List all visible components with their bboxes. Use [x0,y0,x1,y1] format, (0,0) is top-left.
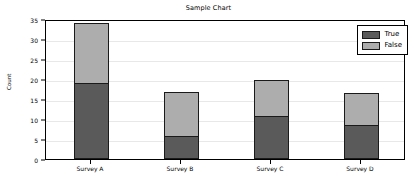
x-tick-mark [360,160,361,164]
legend-item-true[interactable]: True [362,29,402,40]
bar-segment-true[interactable] [164,136,199,159]
y-tick-label: 35 [30,17,38,24]
legend-label: True [384,31,399,38]
bar-stack[interactable] [344,93,379,159]
chart-title: Sample Chart [0,4,417,12]
bar-segment-false[interactable] [74,23,109,83]
y-tick-label: 25 [30,57,38,64]
x-tick-mark [180,160,181,164]
y-tick-label: 0 [34,157,38,164]
x-tick-label: Survey B [167,165,194,172]
legend-swatch-icon [362,42,380,50]
y-axis-ticks: 05101520253035 [0,20,45,160]
plot-area [45,20,405,160]
bar-stack[interactable] [254,80,289,159]
bar-segment-true[interactable] [344,125,379,159]
x-tick-label: Survey A [77,165,104,172]
x-tick-mark [90,160,91,164]
chart-legend: TrueFalse [357,25,408,55]
x-axis-ticks: Survey ASurvey BSurvey CSurvey D [45,160,405,180]
bar-segment-true[interactable] [254,116,289,159]
bar-segment-false[interactable] [164,92,199,136]
legend-label: False [384,42,402,49]
bar-segment-true[interactable] [74,83,109,159]
bar-stack[interactable] [74,23,109,159]
bar-segment-false[interactable] [344,93,379,125]
x-tick-label: Survey D [346,165,373,172]
y-tick-label: 20 [30,77,38,84]
bar-stack[interactable] [164,92,199,159]
legend-item-false[interactable]: False [362,40,402,51]
y-tick-label: 10 [30,117,38,124]
y-tick-label: 30 [30,37,38,44]
x-tick-mark [270,160,271,164]
x-tick-label: Survey C [257,165,284,172]
bar-segment-false[interactable] [254,80,289,116]
legend-swatch-icon [362,31,380,39]
y-tick-label: 15 [30,97,38,104]
chart-figure: Sample Chart Count 05101520253035 Survey… [0,0,417,181]
y-tick-label: 5 [34,137,38,144]
